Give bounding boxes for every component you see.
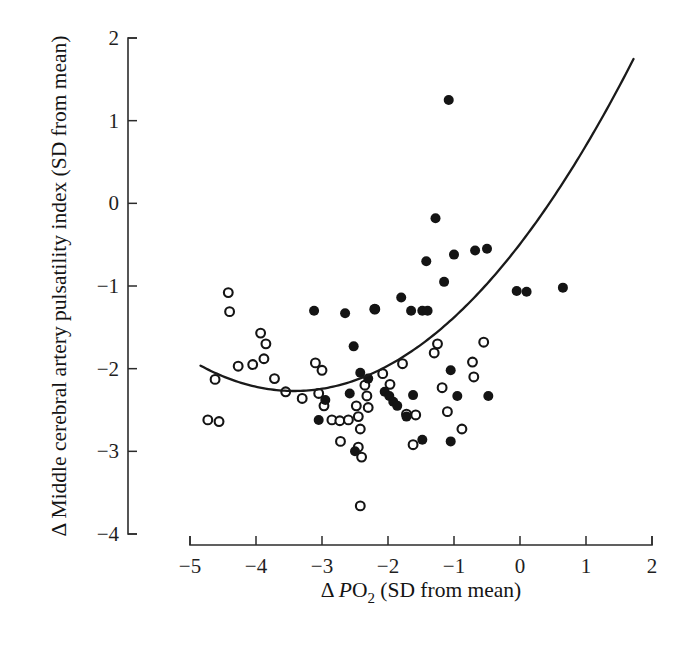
data-point-filled xyxy=(444,95,454,105)
data-point-open xyxy=(479,338,488,347)
x-tick-label: −4 xyxy=(245,554,268,578)
data-point-open xyxy=(468,358,477,367)
data-point-open xyxy=(234,362,243,371)
data-point-open xyxy=(398,359,407,368)
data-point-filled xyxy=(309,306,319,316)
x-axis-title: Δ PO2 (SD from mean) xyxy=(321,578,521,606)
data-point-filled xyxy=(446,436,456,446)
data-point-open xyxy=(262,339,271,348)
data-point-open xyxy=(344,416,353,425)
data-point-open xyxy=(260,354,269,363)
data-point-filled xyxy=(314,415,324,425)
data-point-open xyxy=(248,360,257,369)
data-point-open xyxy=(270,374,279,383)
y-tick-label: 2 xyxy=(109,26,120,50)
data-point-filled xyxy=(370,304,380,314)
data-point-open xyxy=(409,440,418,449)
data-point-open xyxy=(356,501,365,510)
data-point-filled xyxy=(406,306,416,316)
data-point-open xyxy=(364,403,373,412)
plot-svg: 210−1−2−3−4 −5−4−3−2−1012 Δ PO2 (SD from… xyxy=(0,0,696,650)
data-point-filled xyxy=(345,388,355,398)
data-point-open xyxy=(430,349,439,358)
data-point-filled xyxy=(408,390,418,400)
data-point-open xyxy=(458,425,467,434)
data-point-open xyxy=(318,366,327,375)
data-point-filled xyxy=(350,446,360,456)
data-point-open xyxy=(433,339,442,348)
data-point-open xyxy=(438,383,447,392)
y-tick-label: −4 xyxy=(97,522,120,546)
x-tick-label: −2 xyxy=(377,554,399,578)
data-point-filled xyxy=(522,287,532,297)
y-tick-label: −1 xyxy=(97,274,119,298)
data-point-filled xyxy=(512,286,522,296)
data-point-filled xyxy=(320,395,330,405)
x-tick-label: 1 xyxy=(581,554,592,578)
data-point-filled xyxy=(446,365,456,375)
data-point-filled xyxy=(423,306,433,316)
data-point-open xyxy=(469,373,478,382)
data-point-open xyxy=(203,416,212,425)
data-point-open xyxy=(225,307,234,316)
data-point-open xyxy=(256,329,265,338)
data-point-filled xyxy=(421,256,431,266)
x-tick-label: −5 xyxy=(179,554,201,578)
data-point-filled xyxy=(431,213,441,223)
data-point-open xyxy=(352,401,361,410)
data-point-open xyxy=(224,288,233,297)
data-point-filled xyxy=(349,341,359,351)
y-tick-label: 0 xyxy=(109,191,120,215)
data-point-open xyxy=(311,358,320,367)
data-point-filled xyxy=(483,391,493,401)
data-point-open xyxy=(215,417,224,426)
data-point-filled xyxy=(558,283,568,293)
data-point-open xyxy=(443,407,452,416)
y-tick-label: −2 xyxy=(97,357,119,381)
data-point-filled xyxy=(439,277,449,287)
data-point-open xyxy=(336,437,345,446)
data-point-filled xyxy=(392,401,402,411)
y-axis-title: Δ Middle cerebral artery pulsatility ind… xyxy=(47,35,71,536)
data-point-open xyxy=(356,425,365,434)
y-tick-label: 1 xyxy=(109,109,120,133)
data-point-filled xyxy=(452,391,462,401)
data-point-filled xyxy=(482,244,492,254)
data-point-open xyxy=(362,392,371,401)
data-point-open xyxy=(411,411,420,420)
y-tick-label: −3 xyxy=(97,439,119,463)
y-axis-ticks: 210−1−2−3−4 xyxy=(97,26,137,546)
x-tick-label: 0 xyxy=(515,554,526,578)
data-point-open xyxy=(211,375,220,384)
data-point-open xyxy=(298,394,307,403)
data-point-filled xyxy=(417,435,427,445)
x-tick-label: 2 xyxy=(647,554,658,578)
data-point-filled xyxy=(340,308,350,318)
data-point-filled xyxy=(396,293,406,303)
scatter-plot-figure: 210−1−2−3−4 −5−4−3−2−1012 Δ PO2 (SD from… xyxy=(0,0,696,650)
data-point-filled xyxy=(449,250,459,260)
data-point-filled xyxy=(401,412,411,422)
data-point-open xyxy=(354,412,363,421)
data-point-filled xyxy=(470,245,480,255)
x-tick-label: −3 xyxy=(311,554,333,578)
x-axis-ticks: −5−4−3−2−1012 xyxy=(179,536,657,578)
data-point-open xyxy=(335,416,344,425)
data-points-layer xyxy=(203,95,567,510)
x-tick-label: −1 xyxy=(443,554,465,578)
